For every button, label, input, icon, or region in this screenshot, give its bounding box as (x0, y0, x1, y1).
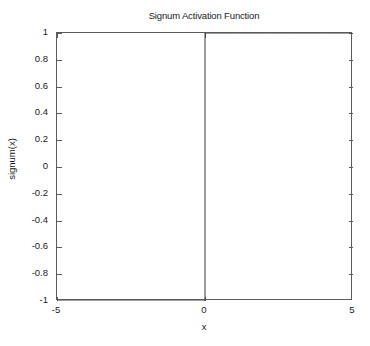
y-tick-label: -0.8 (8, 268, 48, 278)
signum-curve (57, 33, 353, 301)
plot-svg (57, 33, 353, 301)
y-axis-label: signum(x) (6, 109, 18, 209)
x-tick-label: 0 (184, 304, 224, 315)
y-tick-label: 0.6 (8, 81, 48, 91)
x-axis-label: x (56, 321, 352, 333)
y-tick-label: 0.8 (8, 54, 48, 64)
x-tick-label: -5 (36, 304, 76, 315)
x-tick-label: 5 (332, 304, 370, 315)
y-tick-label: 1 (8, 27, 48, 37)
plot-area (56, 32, 352, 300)
y-tick-label: -0.6 (8, 241, 48, 251)
y-tick-label: -0.4 (8, 215, 48, 225)
figure-canvas: Signum Activation Function 10.80.60.40.2… (0, 0, 370, 346)
data-series-signum (57, 33, 353, 301)
chart-title: Signum Activation Function (56, 10, 352, 22)
